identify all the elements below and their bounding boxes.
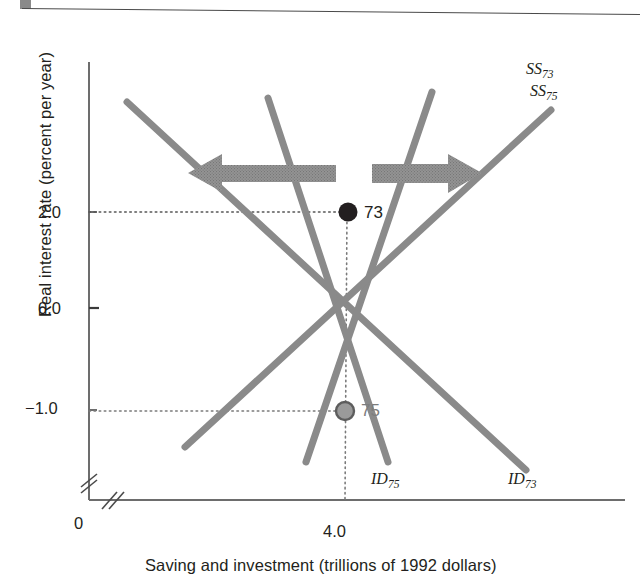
x-tick-label-4.0: 4.0 (323, 522, 346, 541)
x-axis (89, 472, 625, 500)
curve-label-ss73: SS73 (526, 60, 554, 80)
curve-label-ss75-base: SS (530, 82, 546, 99)
curve-label-ss75: SS75 (530, 82, 558, 102)
equilibrium-label-73: 73 (364, 203, 383, 223)
chart-figure: Real interest rate (percent per year) Sa… (0, 0, 640, 583)
y-tick-label-2.0: 2.0 (38, 203, 61, 222)
equilibrium-point-73 (339, 203, 358, 222)
curve-label-ss73-sub: 73 (542, 68, 554, 80)
curve-label-id73-sub: 73 (525, 478, 537, 490)
equilibrium-point-75 (336, 402, 354, 420)
origin-label: 0 (74, 514, 83, 533)
curve-label-ss75-sub: 75 (546, 90, 558, 102)
shift-left-arrow-icon (188, 154, 336, 192)
curve-label-id75-base: ID (371, 470, 388, 487)
curve-label-ss73-base: SS (526, 60, 542, 77)
curve-label-id73: ID73 (508, 470, 536, 490)
y-tick-label-0.0: 0.0 (38, 299, 61, 318)
y-axis-title: Real interest rate (percent per year) (36, 35, 55, 335)
x-axis-title: Saving and investment (trillions of 1992… (145, 556, 497, 575)
y-tick-label--1.0: −1.0 (25, 399, 58, 418)
curve-label-id75-sub: 75 (388, 478, 400, 490)
curve-label-id75: ID75 (371, 470, 399, 490)
equilibrium-label-75: 75 (361, 401, 380, 421)
curve-label-id73-base: ID (508, 470, 525, 487)
